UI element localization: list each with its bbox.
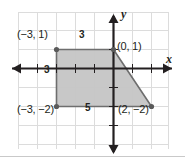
vertex-dot-bottom-left — [54, 104, 59, 109]
x-axis-arrow-left — [12, 64, 21, 74]
coordinate-plane-figure: (−3, 1) (0, 1) (−3, −2) (2, −2) 3 3 5 y … — [0, 0, 185, 163]
vertex-label-top-left: (−3, 1) — [17, 29, 48, 40]
vertex-label-top-right: (0, 1) — [117, 41, 141, 52]
length-label-top: 3 — [79, 30, 85, 40]
length-label-left: 3 — [44, 65, 50, 75]
y-axis-arrow-down — [109, 145, 119, 154]
vertex-dot-top-right — [111, 47, 116, 52]
plot-canvas — [0, 0, 185, 163]
length-label-bottom: 5 — [85, 103, 91, 113]
bottom-divider — [0, 156, 185, 157]
x-axis-label: x — [166, 53, 172, 65]
vertex-dot-bottom-right — [149, 104, 154, 109]
y-axis-label: y — [121, 8, 126, 20]
shaded-trapezoid — [57, 50, 152, 107]
vertex-label-bottom-right: (2, −2) — [118, 104, 149, 115]
vertex-label-bottom-left: (−3, −2) — [17, 104, 54, 115]
vertex-dot-top-left — [54, 47, 59, 52]
y-axis-arrow-up — [109, 14, 119, 23]
